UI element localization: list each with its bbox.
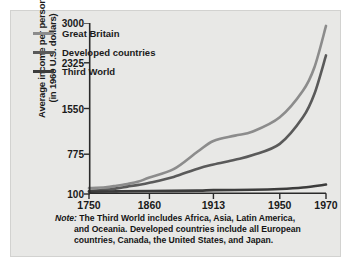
note-line-2: and Oceania. Developed countries include… [55, 224, 313, 235]
y-tick-label: 1550 [62, 103, 84, 114]
x-tick-label: 1970 [314, 199, 337, 211]
legend-swatch-icon [33, 32, 54, 35]
legend-item[interactable]: Developed countries [33, 45, 155, 60]
x-tick-label: 1750 [77, 199, 100, 211]
legend-item[interactable]: Great Britain [33, 26, 155, 41]
x-tick-label: 1950 [268, 199, 291, 211]
x-tick-label: 1860 [138, 199, 161, 211]
chart-note: Note: The Third World includes Africa, A… [55, 213, 313, 247]
note-label: Note: [55, 213, 77, 223]
legend-swatch-icon [33, 51, 54, 54]
figure-panel: Average income per person (in 1960 U.S. … [10, 10, 341, 257]
legend: Great BritainDeveloped countriesThird Wo… [33, 26, 155, 83]
note-line-1: The Third World includes Africa, Asia, L… [79, 213, 295, 223]
y-tick-label: 775 [67, 149, 84, 160]
legend-label: Great Britain [62, 28, 120, 39]
legend-label: Third World [62, 66, 115, 77]
legend-label: Developed countries [62, 47, 155, 58]
note-line-3: countries, Canada, the United States, an… [55, 235, 313, 246]
y-tick-label: 100 [67, 189, 84, 200]
x-tick-label: 1913 [202, 199, 225, 211]
legend-item[interactable]: Third World [33, 64, 155, 79]
legend-swatch-icon [33, 70, 54, 73]
